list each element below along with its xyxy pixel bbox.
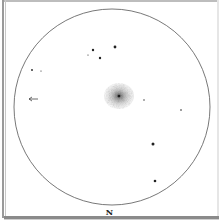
star: [154, 180, 157, 183]
star: [92, 49, 94, 51]
star: [114, 46, 117, 49]
star: [143, 99, 144, 100]
star: [40, 70, 41, 71]
star-field: [31, 46, 182, 183]
sketch-frame: N: [0, 0, 219, 222]
star: [152, 143, 155, 146]
star: [31, 69, 33, 71]
star: [180, 109, 182, 111]
north-label: N: [0, 207, 219, 217]
galaxy: [104, 83, 134, 109]
eyepiece-field: [0, 0, 219, 222]
star: [87, 54, 88, 55]
arrow-icon: [29, 97, 38, 101]
galaxy-core: [118, 95, 121, 98]
star: [99, 57, 101, 59]
